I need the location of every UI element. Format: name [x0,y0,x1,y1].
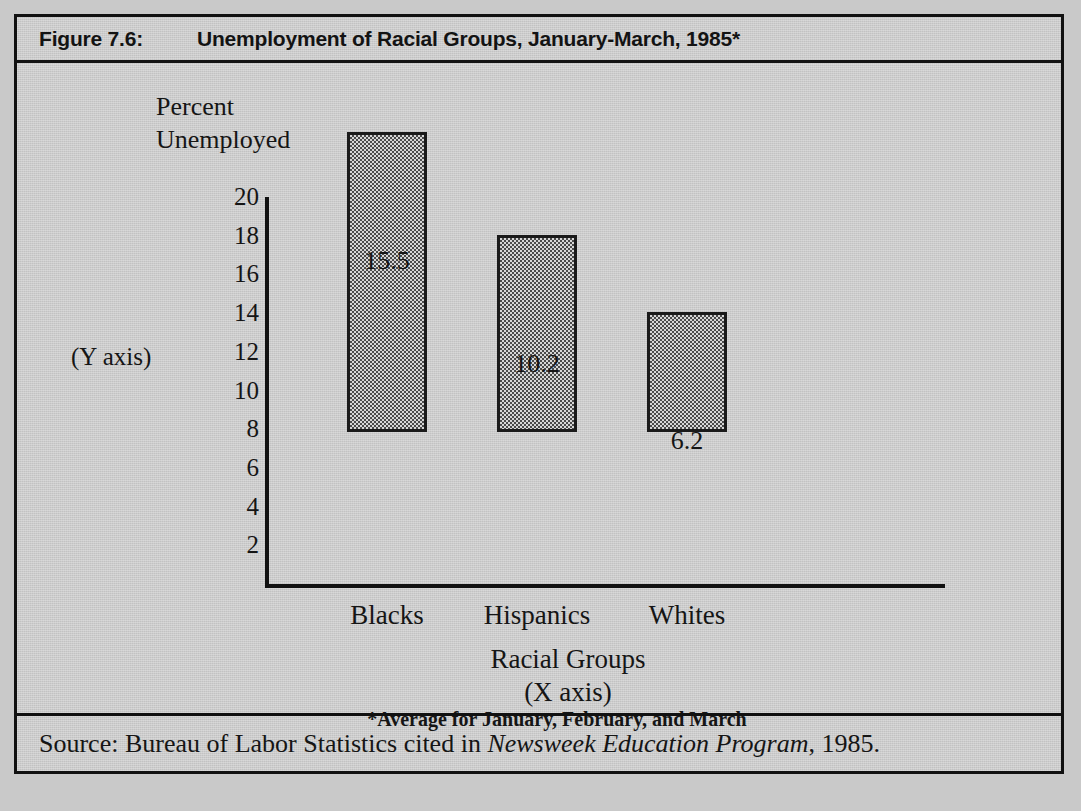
source-suffix: , 1985. [809,729,881,758]
bar-value-label: 15.5 [317,246,457,276]
x-axis-title: Racial Groups (X axis) [17,643,1061,709]
bar-whites [647,312,727,432]
source-prefix: Source: Bureau of Labor Statistics cited… [39,729,487,758]
figure-title: Unemployment of Racial Groups, January-M… [197,27,740,51]
figure-title-bar: Figure 7.6: Unemployment of Racial Group… [17,17,1061,63]
source-citation: Source: Bureau of Labor Statistics cited… [39,729,880,759]
figure-number: Figure 7.6: [39,27,143,51]
bar-value-label: 6.2 [617,426,757,456]
source-publication: Newsweek Education Program [487,729,808,758]
bar-blacks [347,132,427,432]
x-axis-category-label: Whites [597,600,777,631]
bar-value-label: 10.2 [467,349,607,379]
figure-frame: Figure 7.6: Unemployment of Racial Group… [14,14,1064,774]
bar-hispanics [497,235,577,432]
x-axis-title-text: Racial Groups (X axis) [490,643,645,709]
bars-layer: 15.5Blacks10.2Hispanics6.2Whites [17,63,1061,718]
chart-plot-region: Percent Unemployed (Y axis) 201816141210… [17,63,1061,718]
source-bar: Source: Bureau of Labor Statistics cited… [17,713,1061,771]
